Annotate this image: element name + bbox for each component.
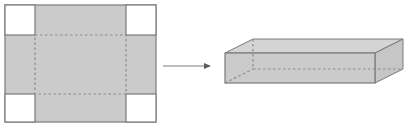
fold-arrow <box>163 63 211 69</box>
box-top-inner <box>225 39 403 53</box>
corner-cutout-top-left <box>5 5 35 35</box>
box-front-face <box>225 53 375 83</box>
corner-cutout-bottom-right <box>126 94 156 122</box>
open-box <box>225 39 403 83</box>
box-net <box>5 5 156 122</box>
corner-cutout-bottom-left <box>5 94 35 122</box>
diagram-canvas <box>0 0 410 127</box>
arrow-head-icon <box>204 63 211 69</box>
corner-cutout-top-right <box>126 5 156 35</box>
